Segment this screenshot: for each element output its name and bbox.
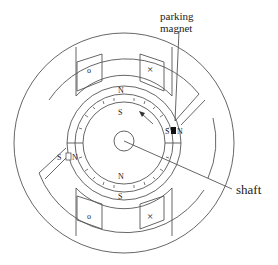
rotor-ticks: [79, 98, 169, 188]
rotor-outer: [67, 86, 181, 200]
rotor-mid: [75, 94, 173, 192]
stator-outer: [14, 33, 234, 253]
left-magnet-n: N: [72, 153, 78, 162]
stator-top-pole-label: N: [118, 86, 124, 95]
right-magnet-s: S: [165, 127, 169, 136]
left-magnet-s: S: [57, 153, 61, 162]
rotor-bottom-pole-label: N: [118, 172, 124, 181]
coil-dot-top: o: [87, 66, 91, 75]
parking-magnet-leader: [175, 31, 179, 121]
stator-bottom-pole-label: S: [118, 192, 122, 201]
coil-cross-bottom: ×: [147, 210, 153, 222]
parking-label-2: magnet: [160, 22, 192, 34]
stator-inner-boundary: [39, 59, 216, 233]
right-magnet-n: N: [177, 127, 183, 136]
parking-label-1: parking: [160, 10, 194, 22]
rotation-arrow: [142, 114, 153, 124]
parking-magnet-left: [66, 153, 71, 160]
right-slot-gap: [175, 94, 205, 125]
rotor-top-pole-label: S: [118, 108, 122, 117]
shaft-label: shaft: [236, 182, 262, 197]
rotor-inner: [83, 102, 165, 184]
parking-magnet-right: [171, 127, 176, 134]
coil-cross-top: ×: [147, 63, 153, 75]
coil-dot-bottom: o: [87, 212, 91, 221]
left-slot-gap: [39, 148, 70, 179]
motor-diagram: parking magnet shaft N S N S S N S N o ×…: [0, 0, 278, 265]
